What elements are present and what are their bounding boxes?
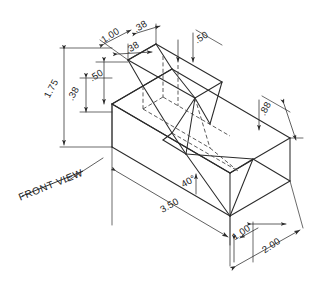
hidden-slot-inner-top (163, 97, 230, 136)
edge-bevel-slope-front (230, 159, 253, 216)
dimline-.88b (284, 104, 296, 140)
edge-slot-lower-to-bottom (186, 154, 230, 216)
ext-2.00-right (290, 181, 303, 228)
edge-right-bottom-back (230, 181, 290, 216)
drawing-sheet: 1.00 .38 .38 .50 1.75 .38 .50 .88 40° 3.… (0, 0, 314, 282)
dim-label-overall-height: 1.75 (41, 77, 60, 100)
edge-top-back-long (172, 69, 290, 138)
edge-slot-right-down (186, 98, 195, 154)
edge-bevel-slope-back (253, 159, 290, 181)
dim-label-top-notch-1: .38 (131, 18, 149, 35)
dim-label-overall-length: 3.50 (158, 195, 181, 214)
hidden-lines (143, 56, 238, 171)
dim-label-top-width-1: 1.00 (99, 25, 122, 45)
dim-label-overall-width: 2.00 (260, 235, 282, 255)
edge-gable-top-right (156, 44, 172, 69)
view-label-front-view: FRONT VIEW (17, 167, 85, 203)
dim-label-base-height: .38 (65, 85, 81, 103)
edge-slot-left-front (143, 86, 172, 133)
solid-body (112, 44, 290, 216)
edge-slot-left-back (172, 98, 195, 133)
dimline-top-.38b (118, 52, 152, 54)
edge-slot-to-bevel (186, 154, 253, 159)
dim-label-top-depth: .50 (192, 29, 210, 46)
edge-slot-apex-lower (163, 140, 186, 154)
hidden-right-inner (210, 148, 238, 171)
dim-label-bevel-run: 1.00 (230, 222, 252, 242)
edge-roof-base-right (172, 69, 195, 98)
isometric-drawing: 1.00 .38 .38 .50 1.75 .38 .50 .88 40° 3.… (0, 0, 314, 282)
dim-label-bevel-angle: 40° (179, 172, 198, 189)
edge-roof-ridge-top (156, 44, 222, 82)
edge-roof-ridge-peak (128, 60, 195, 98)
dim-label-step-height: .50 (87, 67, 105, 84)
edge-gable-left-lower (112, 86, 143, 104)
edge-bevel-front (230, 159, 253, 173)
dimension-labels: 1.00 .38 .38 .50 1.75 .38 .50 .88 40° 3.… (17, 18, 282, 256)
